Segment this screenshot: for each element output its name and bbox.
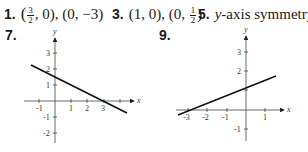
svg-text:2: 2 — [85, 104, 89, 113]
svg-text:-1: -1 — [234, 125, 241, 134]
svg-text:-1: -1 — [36, 104, 43, 113]
svg-text:3: 3 — [237, 48, 241, 57]
svg-text:3: 3 — [101, 104, 105, 113]
svg-text:x: x — [286, 105, 291, 114]
svg-text:-3: -3 — [183, 113, 190, 122]
svg-text:2: 2 — [237, 67, 241, 76]
svg-text:1: 1 — [69, 104, 73, 113]
graph-7: -1 1 2 3 3 2 1 -1 -2 x y — [24, 27, 141, 143]
svg-text:3: 3 — [46, 49, 50, 58]
graph-9: -3 -2 -1 1 3 2 -1 x y — [176, 25, 291, 141]
svg-text:1: 1 — [46, 81, 50, 90]
svg-text:y: y — [52, 27, 57, 36]
svg-text:-1: -1 — [43, 113, 50, 122]
svg-text:-2: -2 — [43, 129, 50, 138]
svg-text:-1: -1 — [222, 113, 229, 122]
svg-text:x: x — [136, 96, 141, 105]
graphs-canvas: -1 1 2 3 3 2 1 -1 -2 x y -3 -2 -1 1 3 — [0, 0, 308, 152]
svg-text:1: 1 — [263, 113, 267, 122]
svg-text:-2: -2 — [202, 113, 209, 122]
svg-text:y: y — [243, 25, 248, 34]
